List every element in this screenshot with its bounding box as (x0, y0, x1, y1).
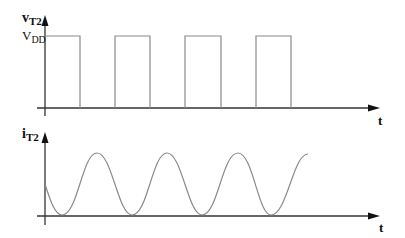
bottom-y-label: iT2 (22, 126, 39, 143)
bottom-x-arrow-icon (368, 213, 380, 220)
waveform-diagram: vT2 VDD t iT2 t (0, 0, 405, 238)
top-y-arrow-icon (42, 15, 49, 26)
top-x-label: t (378, 113, 383, 128)
top-plot: vT2 VDD t (22, 10, 383, 128)
top-x-arrow-icon (368, 105, 380, 112)
bottom-plot: iT2 t (22, 126, 384, 235)
bottom-y-arrow-icon (42, 132, 49, 143)
vdd-level-label: VDD (22, 28, 46, 45)
top-y-label: vT2 (22, 10, 42, 27)
bottom-x-label: t (379, 220, 384, 235)
square-wave-trace (45, 36, 291, 108)
sinusoid-trace (45, 153, 308, 215)
